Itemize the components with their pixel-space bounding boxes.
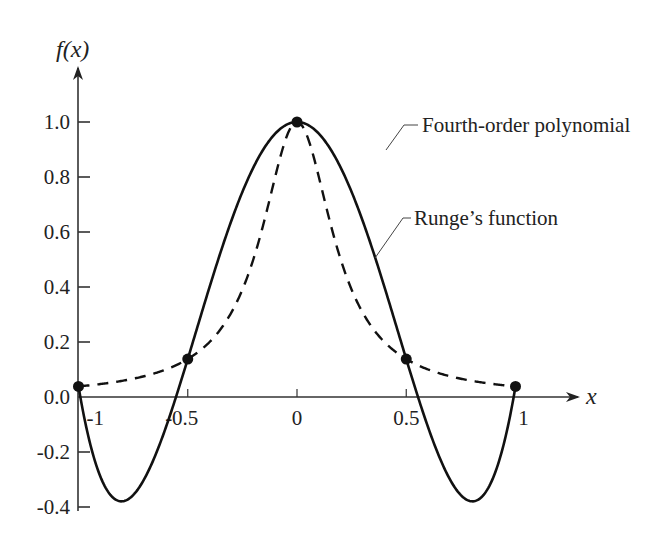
interpolation-point xyxy=(182,354,193,365)
y-tick-label: 1.0 xyxy=(44,110,70,134)
fourth-order-polynomial-line xyxy=(79,122,516,501)
runge-function-line xyxy=(79,122,516,386)
annotation-runge: Runge’s function xyxy=(414,206,559,230)
x-tick-label: 0 xyxy=(292,406,303,430)
y-tick-label: -0.4 xyxy=(37,495,71,519)
annotation-polynomial: Fourth-order polynomial xyxy=(422,113,630,137)
y-ticks: 1.00.80.60.40.20.0-0.2-0.4 xyxy=(37,110,90,519)
x-tick-label: 1 xyxy=(518,406,529,430)
interpolation-point xyxy=(73,381,84,392)
y-tick-label: 0.4 xyxy=(44,275,71,299)
marker-layer xyxy=(73,117,521,392)
x-axis-title: x xyxy=(585,383,597,409)
y-tick-label: 0.6 xyxy=(44,220,70,244)
interpolation-point xyxy=(401,354,412,365)
x-tick-label: -1 xyxy=(87,406,105,430)
y-tick-label: 0.2 xyxy=(44,330,70,354)
runge-chart: 1.00.80.60.40.20.0-0.2-0.4 -1-0.500.51 f… xyxy=(0,0,672,551)
series-layer xyxy=(79,122,516,501)
y-axis-title: f(x) xyxy=(56,36,89,62)
interpolation-point xyxy=(510,381,521,392)
annotation-leader-polynomial xyxy=(386,125,418,150)
x-tick-label: 0.5 xyxy=(393,406,419,430)
annotation-leader-runge xyxy=(375,218,411,258)
x-ticks: -1-0.500.51 xyxy=(87,389,529,430)
y-tick-label: 0.8 xyxy=(44,165,70,189)
y-tick-label: 0.0 xyxy=(44,385,70,409)
interpolation-point xyxy=(292,117,303,128)
y-tick-label: -0.2 xyxy=(37,440,70,464)
